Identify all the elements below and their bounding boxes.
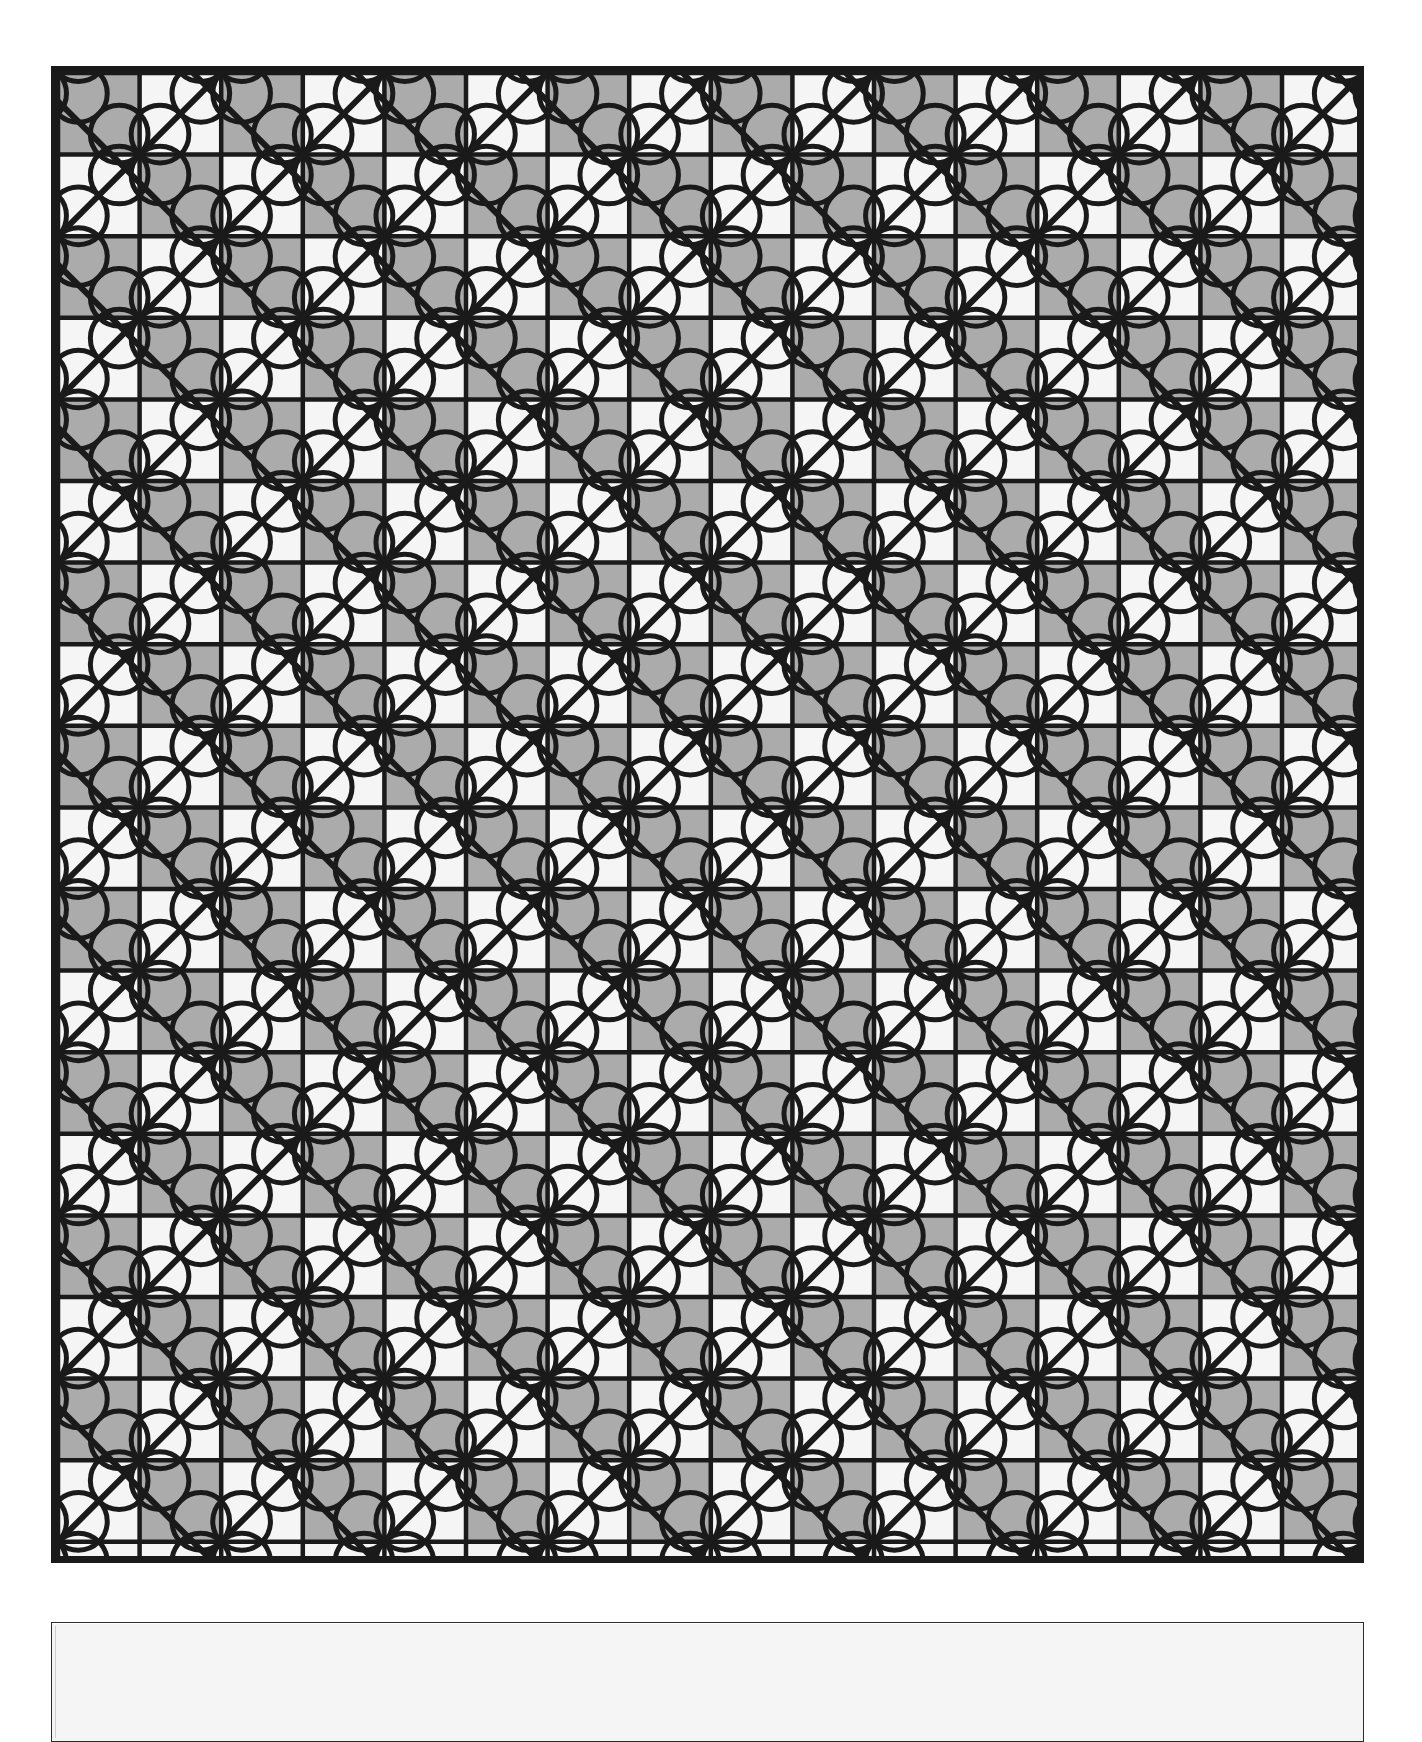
pattern-figure-panel [51, 66, 1364, 1563]
pattern-canvas [51, 66, 1364, 1563]
caption-panel-inner [55, 1626, 1360, 1738]
empty-caption-panel [51, 1622, 1364, 1742]
